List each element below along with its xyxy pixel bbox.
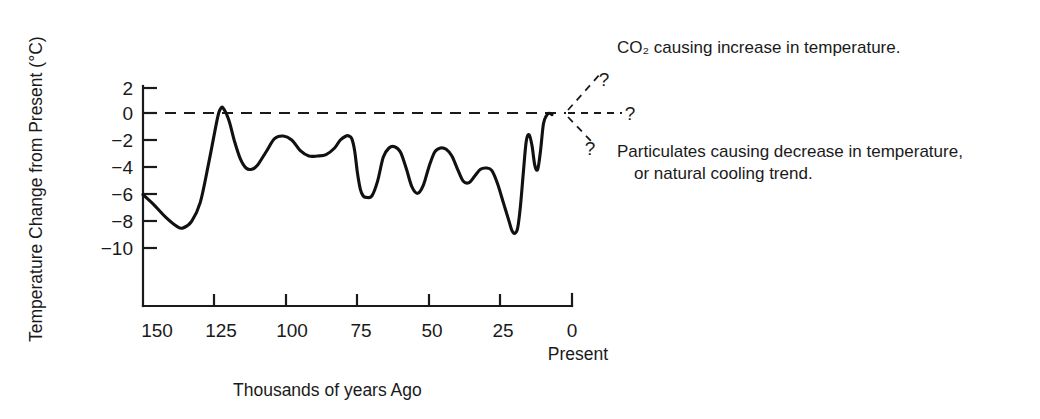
projection-branches bbox=[568, 73, 622, 142]
question-mark-down: ? bbox=[585, 138, 596, 159]
y-tick-label-m8: −8 bbox=[111, 211, 133, 232]
question-mark-up: ? bbox=[599, 69, 610, 90]
y-axis-title: Temperature Change from Present (°C) bbox=[26, 36, 46, 342]
present-label: Present bbox=[548, 344, 608, 364]
y-tick-label-m4: −4 bbox=[111, 157, 133, 178]
y-axis-tick-labels: 2 0 −2 −4 −6 −8 −10 bbox=[101, 78, 134, 259]
y-tick-label-0: 0 bbox=[122, 103, 133, 124]
question-mark-flat: ? bbox=[625, 103, 636, 124]
x-tick-label-125: 125 bbox=[205, 320, 237, 341]
x-axis-tick-labels: 150 125 100 75 50 25 0 Present bbox=[141, 320, 608, 364]
y-tick-label-2: 2 bbox=[122, 78, 133, 99]
y-tick-label-m10: −10 bbox=[101, 238, 133, 259]
plot-axes bbox=[143, 86, 572, 306]
x-axis-title: Thousands of years Ago bbox=[233, 380, 422, 400]
y-tick-label-m2: −2 bbox=[111, 130, 133, 151]
x-tick-label-50: 50 bbox=[421, 320, 442, 341]
x-tick-label-25: 25 bbox=[492, 320, 513, 341]
x-tick-label-0: 0 bbox=[567, 320, 578, 341]
particulates-annotation-line1: Particulates causing decrease in tempera… bbox=[617, 142, 963, 161]
x-tick-label-75: 75 bbox=[350, 320, 371, 341]
co2-annotation-text: CO₂ causing increase in temperature. bbox=[617, 38, 900, 57]
x-tick-label-100: 100 bbox=[276, 320, 308, 341]
x-axis-ticks bbox=[214, 294, 500, 306]
y-tick-label-m6: −6 bbox=[111, 184, 133, 205]
projection-up-line bbox=[568, 73, 601, 110]
x-tick-label-150: 150 bbox=[141, 320, 173, 341]
temperature-curve bbox=[143, 107, 552, 233]
temperature-chart-figure: Temperature Change from Present (°C) Tho… bbox=[0, 0, 1040, 419]
particulates-annotation-line2: or natural cooling trend. bbox=[634, 164, 813, 183]
